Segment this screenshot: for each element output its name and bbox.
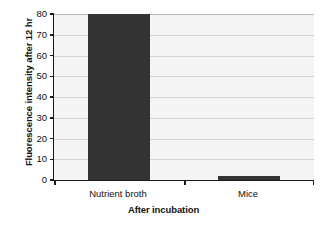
y-axis-tick (50, 34, 54, 36)
x-axis-category-label: Mice (188, 188, 308, 199)
x-axis-end-tick (313, 180, 315, 185)
bar-chart-figure: Fluorescence intensity after 12 hr 01020… (0, 0, 327, 227)
y-axis-tick-label: 80 (36, 9, 47, 19)
x-axis-end-tick (54, 180, 56, 185)
bar-mice[interactable] (218, 176, 280, 180)
y-axis-tick (50, 55, 54, 57)
bar-nutrient-broth[interactable] (88, 14, 150, 180)
x-axis-tick (184, 180, 186, 185)
y-axis-tick-label: 10 (36, 154, 47, 164)
y-axis-tick (50, 159, 54, 161)
y-axis-tick (50, 76, 54, 78)
x-axis-title: After incubation (0, 204, 327, 215)
y-axis-title: Fluorescence intensity after 12 hr (22, 2, 36, 182)
y-axis-tick-label: 50 (36, 71, 47, 81)
y-axis-tick (50, 13, 54, 15)
y-axis-tick (50, 117, 54, 119)
y-axis-tick-label: 70 (36, 30, 47, 40)
y-axis-tick-label: 40 (36, 92, 47, 102)
plot-area: 01020304050607080 (53, 14, 314, 181)
y-axis-tick (50, 138, 54, 140)
x-axis-category-label: Nutrient broth (58, 188, 178, 199)
y-axis-tick-label: 60 (36, 51, 47, 61)
y-axis-tick-label: 30 (36, 113, 47, 123)
y-axis-tick-label: 0 (42, 175, 47, 185)
y-axis-tick (50, 96, 54, 98)
y-axis-tick-label: 20 (36, 134, 47, 144)
